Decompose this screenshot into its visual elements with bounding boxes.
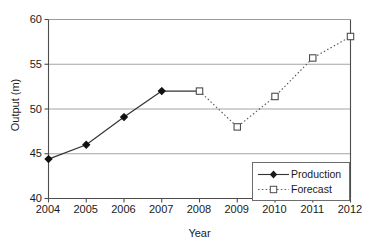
series-markers: [45, 33, 354, 162]
x-axis-title: Year: [48, 227, 351, 239]
x-tick-label: 2012: [327, 203, 369, 215]
data-point-forecast: [310, 55, 316, 61]
series-lines: [49, 37, 351, 160]
data-point-forecast: [196, 88, 202, 94]
data-point-production: [45, 156, 52, 163]
gridlines: [49, 20, 351, 154]
production-line-swatch-icon: [257, 167, 290, 180]
data-point-forecast: [234, 124, 240, 130]
legend-item-forecast: Forecast: [257, 181, 345, 196]
data-point-production: [158, 88, 165, 95]
chart-legend: Production Forecast: [252, 162, 350, 201]
legend-item-production: Production: [257, 166, 345, 181]
legend-label-production: Production: [290, 168, 341, 180]
data-point-forecast: [347, 33, 353, 39]
y-axis-title: Output (m): [9, 59, 21, 151]
y-tick-label: 60: [12, 14, 42, 25]
forecast-line-swatch-icon: [257, 182, 290, 195]
legend-label-forecast: Forecast: [290, 183, 332, 195]
data-point-forecast: [272, 93, 278, 99]
line-chart: 4045505560 20042005200620072008200920102…: [0, 0, 369, 247]
x-axis-tick-labels: 200420052006200720082009201020112012: [48, 203, 351, 219]
